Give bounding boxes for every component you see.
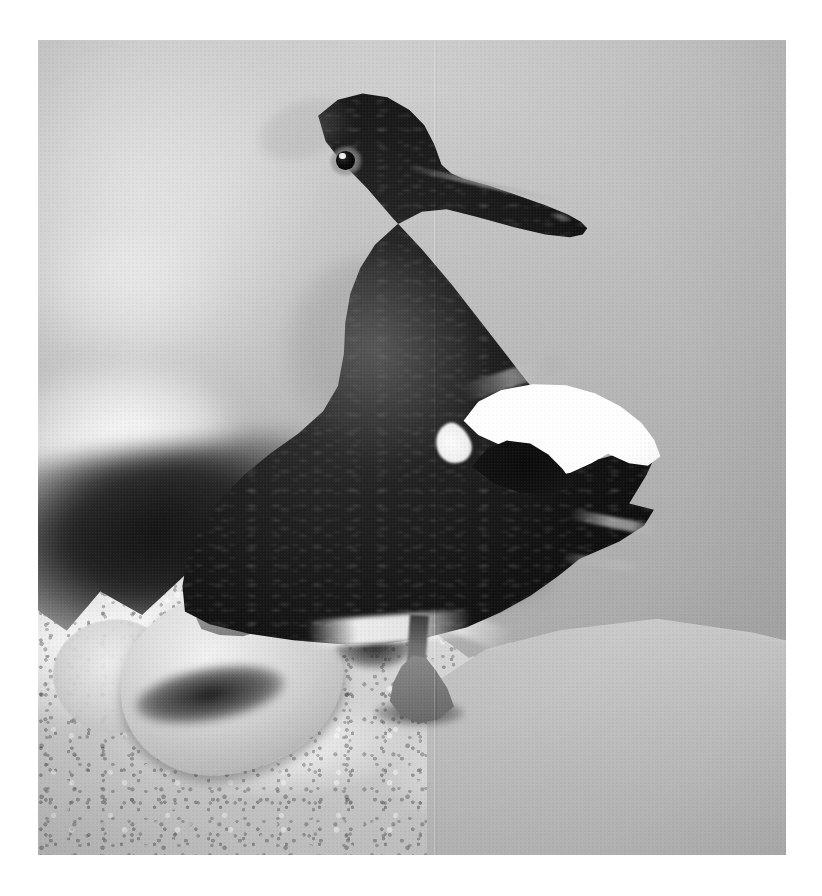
scan-seam-icon (436, 40, 437, 855)
scan-seam-icon (434, 40, 435, 855)
page: Black Guillemot perched on a rocky ledge (0, 0, 822, 896)
tail-feather-gap (561, 552, 644, 573)
photograph: Black Guillemot perched on a rocky ledge (38, 40, 786, 855)
black-guillemot (38, 40, 786, 855)
